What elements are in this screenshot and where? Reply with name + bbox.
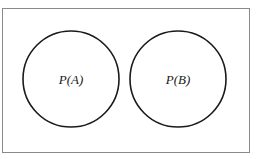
label-p-a: P(A): [58, 72, 84, 87]
venn-diagram: P(A) P(B): [0, 0, 264, 159]
label-p-b: P(B): [165, 72, 191, 87]
sample-space-rectangle: [3, 9, 250, 153]
